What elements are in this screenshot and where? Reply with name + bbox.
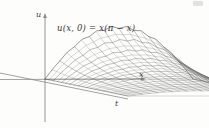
surface-mesh-group: [45, 26, 209, 96]
axis-t-depth: [0, 73, 128, 99]
scan-artifact-mark: [193, 1, 203, 6]
surface-plot-svg: [0, 0, 209, 128]
axis-label-x: x: [139, 71, 144, 79]
axis-u-arrowhead: [43, 13, 47, 18]
mesh-line: [52, 70, 135, 95]
figure-container: u(x, 0) = x(π − x) u x t: [0, 0, 209, 128]
mesh-line: [75, 47, 158, 93]
initial-condition-formula: u(x, 0) = x(π − x): [57, 23, 135, 33]
mesh-line: [141, 32, 209, 91]
mesh-line: [134, 30, 209, 91]
axis-label-u: u: [36, 11, 41, 19]
mesh-line: [124, 89, 209, 95]
axis-label-t: t: [115, 100, 118, 108]
